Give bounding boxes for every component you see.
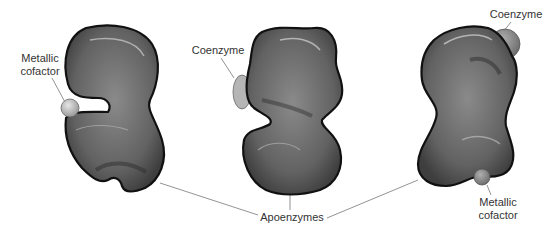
leader-metallic-cofactor-left — [52, 78, 66, 104]
enzyme-diagram: Metallic cofactor Coenzyme Coenzyme Apoe… — [0, 0, 552, 239]
leader-coenzyme-center — [221, 58, 234, 78]
label-coenzyme-center: Coenzyme — [188, 44, 248, 57]
leader-apoenzyme-left — [160, 183, 258, 215]
metallic-cofactor-right — [474, 169, 490, 185]
label-apoenzymes: Apoenzymes — [256, 211, 328, 224]
apoenzyme-left — [65, 25, 164, 191]
apoenzyme-right — [418, 27, 517, 187]
apoenzyme-center — [243, 28, 342, 195]
metallic-cofactor-left — [61, 99, 79, 117]
leader-metallic-cofactor-right — [487, 185, 491, 195]
label-metallic-cofactor-left: Metallic cofactor — [14, 52, 66, 78]
leader-apoenzyme-right — [327, 180, 418, 218]
label-coenzyme-right: Coenzyme — [486, 8, 546, 21]
label-metallic-cofactor-right: Metallic cofactor — [472, 196, 524, 222]
diagram-canvas — [0, 0, 552, 239]
